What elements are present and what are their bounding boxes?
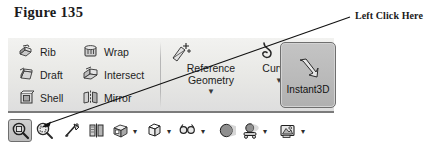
instant3d-icon (293, 56, 323, 82)
hide-show-items-icon (178, 121, 198, 140)
ribbon-command-label: Draft (40, 69, 63, 81)
chevron-down-icon[interactable]: ▾ (262, 128, 272, 136)
reference-geometry-label-line1: Reference (169, 63, 253, 75)
ribbon-command-rib[interactable]: Rib (16, 40, 63, 63)
zoom-to-fit-button[interactable] (8, 117, 32, 143)
reference-geometry-icon (169, 41, 253, 63)
features-ribbon-panel: Rib Draft Shell (8, 38, 334, 113)
chevron-down-icon[interactable]: ▾ (166, 128, 176, 136)
display-style-icon (145, 121, 164, 140)
instant3d-label: Instant3D (287, 84, 330, 95)
magnifier-area-icon (35, 121, 54, 140)
zoom-to-area-button[interactable] (32, 117, 56, 143)
features-column-1: Rib Draft Shell (16, 40, 63, 109)
edit-appearance-button[interactable] (214, 117, 238, 143)
ribbon-command-mirror[interactable]: Mirror (80, 86, 144, 109)
ribbon-command-label: Mirror (104, 92, 131, 104)
chevron-down-icon[interactable]: ▼ (169, 88, 253, 96)
draft-icon (18, 66, 35, 83)
section-view-button[interactable] (84, 117, 108, 143)
ribbon-command-draft[interactable]: Draft (16, 63, 63, 86)
ribbon-command-shell[interactable]: Shell (16, 86, 63, 109)
magnifier-fit-icon (11, 121, 30, 140)
shell-icon (18, 89, 35, 106)
previous-view-button[interactable] (60, 117, 84, 143)
hide-show-items-button[interactable]: ▾ (176, 117, 210, 143)
chevron-down-icon[interactable]: ▾ (132, 128, 142, 136)
apply-scene-icon (240, 121, 260, 140)
reference-geometry-button[interactable]: Reference Geometry ▼ (169, 41, 253, 96)
wrap-icon (82, 43, 99, 60)
previous-view-icon (63, 121, 82, 140)
view-settings-button[interactable]: ▾ (276, 117, 310, 143)
figure-title: Figure 135 (14, 4, 83, 21)
features-column-2: Wrap Intersect Mirror (80, 40, 144, 109)
view-orientation-icon (111, 121, 130, 140)
ribbon-command-label: Intersect (104, 69, 144, 81)
instant3d-toggle-button[interactable]: Instant3D (280, 42, 336, 108)
display-style-button[interactable]: ▾ (142, 117, 176, 143)
mirror-icon (82, 89, 99, 106)
ribbon-command-wrap[interactable]: Wrap (80, 40, 144, 63)
callout-label: Left Click Here (355, 10, 423, 21)
view-toolbar: ▾ ▾ ▾ (8, 116, 310, 144)
reference-geometry-label-line2: Geometry (169, 75, 253, 87)
chevron-down-icon[interactable]: ▾ (200, 128, 210, 136)
ribbon-command-label: Rib (40, 46, 56, 58)
chevron-down-icon[interactable]: ▾ (300, 128, 310, 136)
rib-icon (18, 43, 35, 60)
view-settings-icon (278, 121, 298, 140)
ribbon-separator (160, 42, 161, 108)
view-orientation-button[interactable]: ▾ (108, 117, 142, 143)
ribbon-command-label: Wrap (104, 46, 129, 58)
section-view-icon (87, 121, 106, 140)
intersect-icon (82, 66, 99, 83)
apply-scene-button[interactable]: ▾ (238, 117, 272, 143)
ribbon-command-intersect[interactable]: Intersect (80, 63, 144, 86)
ribbon-command-label: Shell (40, 92, 63, 104)
appearance-sphere-icon (217, 121, 236, 140)
